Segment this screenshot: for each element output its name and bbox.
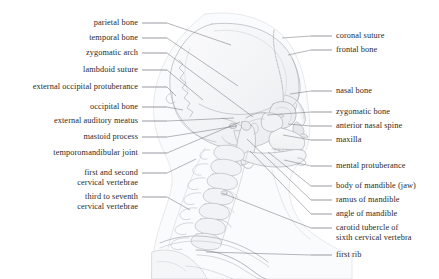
label-zygomatic-arch: zygomatic arch: [0, 48, 138, 58]
label-line: zygomatic bone: [336, 107, 439, 117]
label-ramus-of-mandible: ramus of mandible: [336, 195, 439, 205]
label-body-of-mandible-jaw: body of mandible (jaw): [336, 181, 439, 191]
leader-line-coronal-suture: [282, 36, 311, 38]
leader-line-ramus-of-mandible: [247, 139, 311, 200]
leader-line-occipital-bone: [167, 107, 183, 110]
label-frontal-bone: frontal bone: [336, 45, 439, 55]
label-line: temporal bone: [0, 33, 138, 43]
label-line: cervical vertebrae: [0, 178, 138, 188]
label-mastoid-process: mastoid process: [0, 132, 138, 142]
label-carotid-tubercle-of-sixth-cervical-vertebra: carotid tubercle ofsixth cervical verteb…: [336, 223, 439, 243]
leader-line-body-of-mandible-jaw: [268, 152, 311, 186]
label-line: cervical vertebrae: [0, 202, 138, 212]
label-line: temporomandibular joint: [0, 148, 138, 158]
label-anterior-nasal-spine: anterior nasal spine: [336, 121, 439, 131]
leader-line-lambdoid-suture: [167, 70, 203, 100]
label-zygomatic-bone: zygomatic bone: [336, 107, 439, 117]
label-line: ramus of mandible: [336, 195, 439, 205]
label-temporal-bone: temporal bone: [0, 33, 138, 43]
label-angle-of-mandible: angle of mandible: [336, 209, 439, 219]
leader-line-anterior-nasal-spine: [288, 124, 311, 126]
label-line: external occipital protuberance: [0, 82, 138, 92]
leader-line-maxilla: [283, 135, 311, 140]
leader-line-mastoid-process: [167, 126, 236, 137]
label-line: first rib: [336, 250, 439, 260]
label-maxilla: maxilla: [336, 135, 439, 145]
label-line: anterior nasal spine: [336, 121, 439, 131]
leader-line-temporomandibular-joint: [167, 122, 240, 153]
label-line: frontal bone: [336, 45, 439, 55]
leader-line-temporal-bone: [167, 38, 238, 86]
label-line: coronal suture: [336, 31, 439, 41]
label-line: mastoid process: [0, 132, 138, 142]
leader-line-angle-of-mandible: [250, 151, 311, 214]
label-line: carotid tubercle of: [336, 223, 439, 233]
label-line: first and second: [0, 168, 138, 178]
label-line: third to seventh: [0, 192, 138, 202]
label-nasal-bone: nasal bone: [336, 86, 439, 96]
leader-line-frontal-bone: [288, 50, 311, 55]
leader-line-nasal-bone: [290, 91, 311, 94]
leader-line-first-rib: [206, 252, 311, 255]
label-external-auditory-meatus: external auditory meatus: [0, 116, 138, 126]
label-line: mental protuberance: [336, 161, 439, 171]
leader-line-parietal-bone: [167, 23, 231, 45]
label-parietal-bone: parietal bone: [0, 18, 138, 28]
leader-line-mental-protuberance: [284, 160, 311, 166]
label-line: zygomatic arch: [0, 48, 138, 58]
leader-line-external-auditory-meatus: [167, 118, 234, 121]
label-line: lambdoid suture: [0, 65, 138, 75]
label-first-and-second-cervical-vertebrae: first and secondcervical vertebrae: [0, 168, 138, 188]
label-external-occipital-protuberance: external occipital protuberance: [0, 82, 138, 92]
label-line: external auditory meatus: [0, 116, 138, 126]
anatomy-figure: parietal bonetemporal bonezygomatic arch…: [0, 0, 439, 279]
label-coronal-suture: coronal suture: [336, 31, 439, 41]
leader-line-zygomatic-bone: [267, 112, 311, 115]
label-mental-protuberance: mental protuberance: [336, 161, 439, 171]
label-temporomandibular-joint: temporomandibular joint: [0, 148, 138, 158]
label-line: occipital bone: [0, 102, 138, 112]
label-lambdoid-suture: lambdoid suture: [0, 65, 138, 75]
leader-line-third-to-seventh-cervical-vertebrae: [167, 197, 190, 210]
label-occipital-bone: occipital bone: [0, 102, 138, 112]
label-line: body of mandible (jaw): [336, 181, 439, 191]
label-line: maxilla: [336, 135, 439, 145]
label-first-rib: first rib: [336, 250, 439, 260]
label-line: nasal bone: [336, 86, 439, 96]
label-line: parietal bone: [0, 18, 138, 28]
label-line: sixth cervical vertebra: [336, 233, 439, 243]
leader-line-zygomatic-arch: [167, 53, 253, 117]
label-line: angle of mandible: [336, 209, 439, 219]
leader-line-external-occipital-protuberance: [167, 87, 176, 96]
label-third-to-seventh-cervical-vertebrae: third to seventhcervical vertebrae: [0, 192, 138, 212]
leader-line-first-and-second-cervical-vertebrae: [167, 159, 196, 173]
leader-line-carotid-tubercle-of-sixth-cervical-vertebra: [222, 193, 311, 228]
